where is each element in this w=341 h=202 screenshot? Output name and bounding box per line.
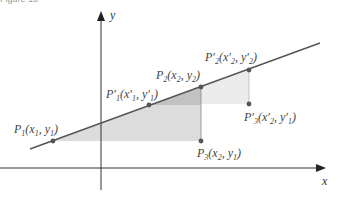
point-p3-prime xyxy=(247,102,252,107)
label-p3: P3(x2, y1) xyxy=(196,146,241,162)
label-p2-prime: P′2(x′2, y′2) xyxy=(204,50,257,66)
label-p3-prime: P′3(x′2, y′1) xyxy=(243,110,296,126)
label-p1-prime: P′1(x′1, y′1) xyxy=(105,87,158,103)
point-p1 xyxy=(51,139,56,144)
x-axis-label: x xyxy=(321,174,328,188)
slope-diagram: y x P1(x1, y1) P′1(x′1, y′1) P2(x2, y2) … xyxy=(0,0,341,202)
x-axis-arrow-icon xyxy=(316,164,326,172)
point-p2 xyxy=(199,85,204,90)
point-p1-prime xyxy=(147,103,152,108)
point-p3 xyxy=(199,139,204,144)
label-p2: P2(x2, y2) xyxy=(155,68,200,84)
point-p2-prime xyxy=(247,68,252,73)
label-p1: P1(x1, y1) xyxy=(13,122,58,138)
y-axis-arrow-icon xyxy=(97,11,105,21)
y-axis-label: y xyxy=(109,8,116,22)
right-triangle-shade xyxy=(201,70,249,104)
